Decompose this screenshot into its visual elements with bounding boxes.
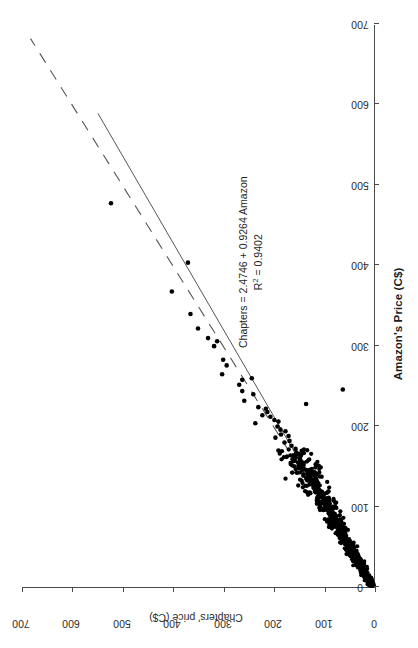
data-point	[326, 490, 330, 494]
x-tick-mark	[374, 425, 379, 426]
rotated-chart-container: 0100200300400500600700 01002003004005006…	[0, 0, 418, 648]
y-tick-mark	[173, 587, 174, 592]
data-point	[327, 506, 331, 510]
x-tick-mark	[374, 345, 379, 346]
data-point	[215, 339, 220, 344]
data-point	[240, 378, 245, 383]
data-point	[304, 402, 309, 407]
data-point	[251, 392, 256, 397]
data-point	[220, 372, 225, 377]
data-point	[196, 326, 201, 331]
data-point	[308, 474, 312, 478]
data-point	[289, 443, 294, 448]
r-value: = 0.9402	[252, 234, 264, 278]
x-tick-label: 700	[351, 19, 369, 31]
y-tick-mark	[123, 587, 124, 592]
data-point	[329, 525, 333, 529]
data-point	[282, 440, 287, 445]
r-exponent: 2	[251, 278, 260, 282]
x-tick-label: 0	[357, 582, 363, 594]
data-point	[278, 452, 282, 456]
data-point	[333, 517, 337, 521]
data-point	[341, 521, 345, 525]
y-tick-mark	[375, 587, 376, 592]
data-point	[307, 470, 311, 474]
data-point	[287, 439, 292, 444]
y-axis-title: Chapters' price (C$)	[20, 612, 373, 624]
data-point	[354, 549, 358, 553]
data-point	[242, 398, 247, 403]
data-point	[212, 344, 217, 349]
x-tick-mark	[374, 506, 379, 507]
data-point	[365, 571, 369, 575]
data-point	[330, 513, 334, 517]
data-point	[279, 457, 283, 461]
data-point	[313, 483, 317, 487]
data-point	[296, 483, 300, 487]
data-point	[188, 312, 193, 317]
scatter-chart: 0100200300400500600700 01002003004005006…	[0, 0, 418, 648]
y-tick-mark	[224, 587, 225, 592]
data-point	[349, 546, 353, 550]
data-point	[268, 414, 273, 419]
data-point	[338, 517, 342, 521]
x-tick-mark	[374, 264, 379, 265]
data-point	[293, 459, 297, 463]
x-tick-label: 100	[351, 502, 369, 514]
data-point	[323, 496, 327, 500]
data-point	[240, 389, 245, 394]
plot-area	[22, 25, 375, 588]
data-point	[221, 357, 226, 362]
data-point	[327, 518, 331, 522]
data-point	[327, 502, 331, 506]
data-point	[334, 531, 338, 535]
data-point	[290, 470, 294, 474]
data-point	[316, 495, 320, 499]
x-tick-label: 400	[351, 260, 369, 272]
data-point	[301, 474, 305, 478]
data-point	[283, 477, 287, 481]
data-point	[309, 452, 313, 456]
data-point	[305, 478, 309, 482]
x-axis-title: Amazon's Price (C$)	[392, 0, 404, 648]
data-point	[284, 455, 288, 459]
x-tick-label: 200	[351, 421, 369, 433]
data-point	[359, 566, 363, 570]
data-point	[297, 463, 301, 467]
data-point	[224, 363, 229, 368]
data-point	[300, 478, 304, 482]
data-points	[22, 25, 374, 587]
data-point	[355, 544, 359, 548]
data-point	[186, 260, 191, 265]
data-point	[313, 470, 317, 474]
x-tick-mark	[374, 103, 379, 104]
data-point	[265, 410, 270, 415]
data-point	[289, 462, 293, 466]
x-tick-label: 600	[351, 99, 369, 111]
data-point	[305, 484, 309, 488]
data-point	[338, 509, 342, 513]
data-point	[305, 459, 309, 463]
r-squared-line: R2 = 0.9402	[251, 176, 266, 348]
equation-line: Chapters = 2.4746 + 0.9264 Amazon	[236, 176, 251, 348]
data-point	[272, 418, 277, 423]
data-point	[260, 413, 265, 418]
data-point	[287, 447, 291, 451]
data-point	[273, 435, 278, 440]
data-point	[341, 387, 346, 392]
regression-equation-annotation: Chapters = 2.4746 + 0.9264 Amazon R2 = 0…	[236, 176, 266, 348]
data-point	[313, 465, 317, 469]
data-point	[313, 489, 317, 493]
data-point	[322, 501, 326, 505]
data-point	[327, 485, 331, 489]
data-point	[305, 490, 309, 494]
r-symbol: R	[252, 283, 264, 291]
data-point	[338, 513, 342, 517]
data-point	[340, 531, 344, 535]
data-point	[298, 470, 302, 474]
data-point	[325, 480, 329, 484]
data-point	[337, 522, 341, 526]
data-point	[237, 382, 242, 387]
data-point	[170, 289, 175, 294]
data-point	[283, 429, 288, 434]
